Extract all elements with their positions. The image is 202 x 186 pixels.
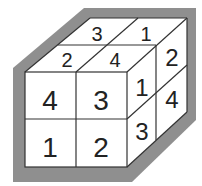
front-cell-top-left: 4 [42, 85, 58, 116]
front-cell-top-right: 3 [93, 85, 109, 116]
right-cell-bottom-back: 4 [165, 86, 178, 113]
top-cell-front-right: 4 [109, 49, 120, 71]
top-cell-front-left: 2 [61, 49, 72, 71]
front-cell-bottom-right: 2 [93, 132, 109, 163]
right-cell-bottom-front: 3 [135, 118, 148, 145]
top-cell-back-right: 1 [140, 23, 151, 45]
right-cell-top-front: 1 [135, 74, 148, 101]
front-cell-bottom-left: 1 [42, 132, 58, 163]
cube-diagram: 4 3 1 2 3 1 2 4 1 2 3 4 [0, 0, 202, 186]
right-cell-top-back: 2 [165, 44, 178, 71]
top-cell-back-left: 3 [91, 23, 102, 45]
